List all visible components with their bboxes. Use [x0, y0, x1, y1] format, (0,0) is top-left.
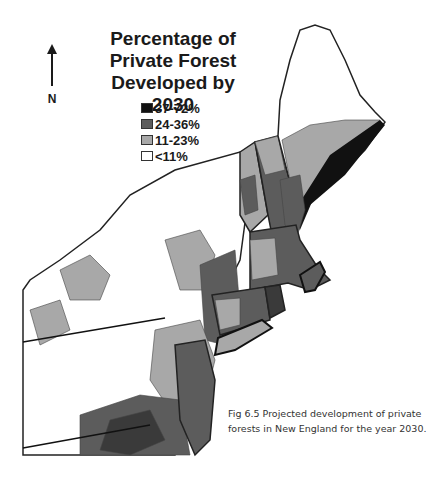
legend-item: 11-23%	[141, 132, 200, 148]
map-title-line: Private Forest	[88, 50, 258, 72]
legend-item: <11%	[141, 148, 200, 164]
legend-label: <11%	[155, 149, 188, 164]
legend-label: 24-36%	[155, 117, 200, 132]
legend-swatch	[141, 135, 153, 145]
legend: 37-72% 24-36% 11-23% <11%	[141, 100, 200, 164]
legend-item: 24-36%	[141, 116, 200, 132]
north-label: N	[44, 92, 60, 106]
legend-swatch	[141, 151, 153, 161]
caption-line: Fig 6.5 Projected development of private	[228, 406, 426, 421]
legend-label: 11-23%	[155, 133, 199, 148]
legend-swatch	[141, 103, 153, 113]
map-title-line: Percentage of	[88, 28, 258, 50]
region-ma-west	[250, 238, 278, 280]
north-arrow: N	[44, 44, 60, 106]
legend-item: 37-72%	[141, 100, 200, 116]
legend-swatch	[141, 119, 153, 129]
north-arrow-icon	[44, 44, 60, 86]
figure-caption: Fig 6.5 Projected development of private…	[228, 406, 426, 436]
legend-label: 37-72%	[155, 101, 200, 116]
caption-line: forests in New England for the year 2030…	[228, 421, 426, 436]
